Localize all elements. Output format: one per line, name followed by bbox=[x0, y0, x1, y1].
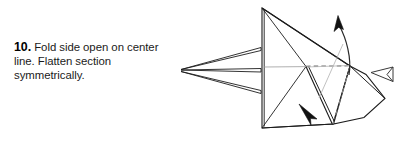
unfold-arrow-up-head bbox=[334, 16, 344, 32]
left-spike-lower bbox=[181, 72, 261, 94]
origami-diagram bbox=[0, 0, 411, 143]
left-spike-core bbox=[181, 69, 261, 73]
push-arrow-hollow bbox=[371, 67, 393, 82]
left-spike-upper bbox=[181, 48, 261, 70]
instruction-page: 10. Fold side open on center line. Flatt… bbox=[0, 0, 411, 143]
diagram-body bbox=[181, 8, 393, 128]
push-arrow-hollow-head bbox=[371, 67, 393, 82]
left-spike-group bbox=[181, 48, 261, 94]
